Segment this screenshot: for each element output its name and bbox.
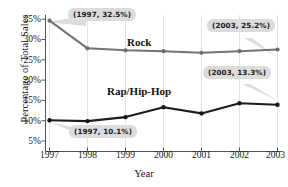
series-label-rap-hip-hop: Rap/Hip-Hop — [107, 85, 171, 97]
x-tick-2002: 2002 — [230, 150, 249, 160]
x-tick-2003: 2003 — [266, 150, 285, 160]
leader-rap-2003 — [242, 84, 277, 100]
x-tick-1999: 1999 — [116, 150, 135, 160]
callout-rap-1997: (1997, 10.1%) — [69, 125, 137, 138]
chart-root: Percentage of Total Sales 35% 30% 25% 20… — [0, 0, 288, 187]
leader-rock-2003 — [244, 38, 277, 57]
x-tick-1998: 1998 — [78, 150, 97, 160]
x-tick-2000: 2000 — [154, 150, 173, 160]
callout-rock-2003: (2003, 25.2%) — [207, 19, 275, 32]
series-label-rock: Rock — [127, 36, 151, 48]
x-tick-1997: 1997 — [40, 150, 59, 160]
callout-rock-1997: (1997, 32.5%) — [68, 8, 136, 21]
callout-rap-2003: (2003, 13.3%) — [203, 66, 271, 79]
y-axis-spine — [42, 15, 46, 151]
x-axis-title: Year — [0, 168, 288, 179]
x-tick-2001: 2001 — [192, 150, 211, 160]
